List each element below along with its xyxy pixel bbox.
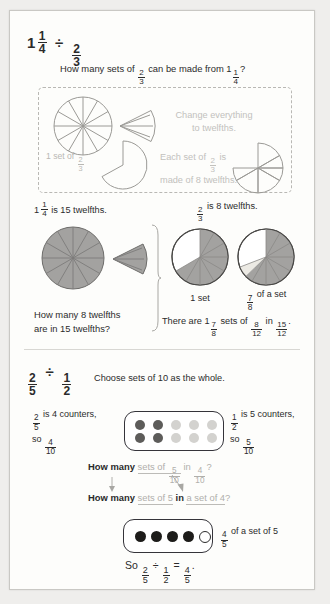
stmt-left-whole: 1 [34,205,39,215]
label-four-fifths-of-set-of-five: 45 of a set of 5 [220,524,278,549]
line1-bold: How many [88,461,138,472]
left-block-den: 5 [33,423,40,432]
statement-left-fifteen-twelfths: 114 is 15 twelfths. [34,201,107,218]
bottom-label-den: 5 [221,540,228,549]
result-suffix: . [192,559,195,571]
hint2-num: 2 [210,157,216,165]
bottom-label-text: of a set of 5 [229,526,279,536]
s1-title-num1: 1 [38,30,47,42]
pie-seven-eighths-of-set [236,227,296,287]
stmt-right-num: 2 [197,206,203,214]
stmt-left-text: is 15 twelfths. [49,205,107,215]
pie-one-set [170,227,230,287]
concl-f1-num: 8 [253,321,259,329]
worksheet-page: 114 ÷ 23 How many sets of 23 can be made… [9,10,315,590]
section2-right-block: 12 is 5 counters, so 510 [230,407,314,457]
stmt-right-den: 3 [197,214,203,223]
concl-mid1: sets of [218,316,250,326]
left-block-so: so [32,434,44,444]
counter-dot-filled [167,531,178,542]
q-mix-num: 1 [233,69,239,77]
q-suffix: ? [240,63,245,74]
concl-prefix: There are 1 [162,316,210,326]
line2-mid: in [173,492,187,503]
shaded-circle-twelve-twelfths [40,225,106,291]
counter-dot-filled [151,531,162,542]
left-block-line1: 25 is 4 counters, [32,407,114,432]
counter-dot-filled [183,531,194,542]
counter-dot [135,420,145,430]
s1-title-whole: 1 [27,34,36,51]
section1-question: How many sets of 23 can be made from 114… [60,63,245,86]
s1-title-num2: 2 [72,43,81,55]
result-n1: 2 [142,566,149,575]
counter-dot-filled [135,531,146,542]
section2-result: So 25÷12=45. [125,559,195,585]
counter-dot [207,433,217,443]
label-left-den: 3 [78,164,84,172]
concl-f2-num: 15 [276,321,287,329]
concl-f1-den: 12 [251,329,262,338]
concl-f2-den: 12 [276,329,287,338]
concl-suffix: . [288,316,291,326]
outline-eight-twelfths-fan [253,141,299,195]
counter-dot-empty [199,531,211,543]
result-d1: 5 [142,575,149,585]
caption-left-line1: How many 8 twelfths [34,308,152,322]
statement-right-eight-twelfths: 23 is 8 twelfths. [196,201,258,223]
result-n2: 1 [163,566,170,575]
right-block-num: 1 [231,414,238,422]
s2-title-den1: 5 [28,384,37,397]
left-block-so-den: 10 [45,447,56,456]
counter-dot [153,433,163,443]
concl-mid2: in [263,316,275,326]
line2-suffix: ? [225,492,230,503]
counter-dot [207,420,217,430]
s2-title-num1: 2 [28,372,37,384]
hint-change-to-twelfths: Change everything to twelfths. [162,109,266,136]
counter-dot [171,433,181,443]
label-one-set-of-two-thirds: 1 set of 23 [46,151,85,172]
caption-seven-eighths-of-set: 78 of a set [232,289,300,311]
hint2-den: 3 [210,165,216,174]
s2-title-den2: 2 [62,384,71,397]
counter-dot [135,433,145,443]
line2-dim1: sets of 5 [138,492,173,505]
right-block-text: is 5 counters, [239,409,295,419]
cap-right-num: 7 [247,294,254,302]
s1-title-operator: ÷ [55,34,64,51]
s2-title-operator: ÷ [45,363,54,380]
section2-left-block: 25 is 4 counters, so 410 [32,407,114,457]
right-block-so: so [230,434,242,444]
bottom-label-num: 4 [221,531,228,539]
right-block-so-den: 10 [243,447,254,456]
label-left-text: 1 set of [46,151,77,161]
section2-title: 25 ÷ 12 [27,363,72,397]
right-block-so-num: 5 [245,439,252,447]
caption-one-set: 1 set [172,293,228,303]
q-frac-den: 3 [138,77,144,86]
outline-two-thirds-shape [97,139,149,191]
section2-note: Choose sets of 10 as the whole. [94,373,225,383]
counter-dot [189,433,199,443]
result-equals: = [174,559,180,571]
q-frac-num: 2 [138,69,144,77]
left-block-num: 2 [33,414,40,422]
counters-grid-ten [124,411,224,451]
q-middle: can be made from 1 [146,63,232,74]
left-block-text: is 4 counters, [41,409,97,419]
left-block-so-num: 4 [47,439,54,447]
question-line-2: How many sets of 5 in a set of 4? [88,492,230,503]
shaded-wedge-three-twelfths [110,237,146,281]
counter-dot [153,420,163,430]
line1-suffix: ? [206,461,211,472]
hint2-a: Each set of [160,152,209,162]
stmt-left-num: 1 [41,201,47,209]
result-prefix: So [125,559,141,571]
result-d3: 5 [184,575,191,585]
counter-dot [171,420,181,430]
right-block-line2: so 510 [230,432,314,457]
caption-how-many-8-twelfths: How many 8 twelfths are in 15 twelfths? [34,308,152,335]
hint1-line1: Change everything [162,109,266,122]
label-left-num: 2 [78,156,84,163]
